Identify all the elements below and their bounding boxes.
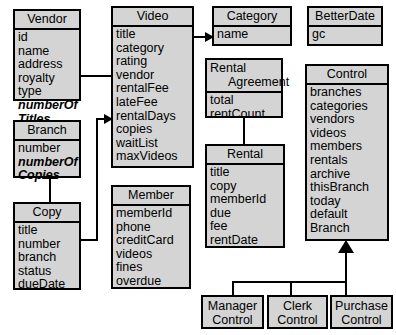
attribute-item: status	[18, 265, 77, 279]
class-attributes-control: branches categories vendors videos membe…	[307, 85, 387, 238]
connector-clerk-control-riser	[290, 281, 292, 295]
attribute-item: rentDate	[210, 234, 281, 248]
attribute-item: phone	[116, 221, 187, 235]
class-name-rental: Rental	[207, 146, 283, 165]
class-name-line2: Agreement	[210, 75, 279, 89]
class-name-member: Member	[113, 187, 189, 206]
class-attributes-rental: title copy memberId due fee rentDate	[207, 165, 283, 250]
connector-control-trunk	[345, 252, 347, 283]
attribute-item: thisBranch	[310, 181, 385, 195]
attribute-item: vendor	[116, 69, 190, 83]
attribute-item: videos	[116, 248, 187, 262]
class-name-vendor: Vendor	[15, 11, 79, 30]
class-box-betterdate[interactable]: BetterDate gc	[307, 6, 383, 46]
attribute-item: copy	[210, 180, 281, 194]
class-name-purchase-control: Purchase Control	[332, 297, 391, 329]
attribute-item: gc	[312, 28, 379, 42]
attribute-item: title	[116, 28, 190, 42]
attribute-item: title	[18, 224, 77, 238]
attribute-item: branches	[310, 86, 385, 100]
generalization-triangle-controls	[338, 240, 354, 253]
class-box-video[interactable]: Video title category rating vendor renta…	[111, 6, 194, 168]
class-box-clerk-control[interactable]: Clerk Control	[267, 295, 328, 329]
attribute-item: branch	[18, 251, 77, 265]
attribute-item: overdue	[116, 275, 187, 289]
class-diagram-canvas: Vendor id name address royalty type numb…	[0, 0, 396, 335]
attribute-item: rentalFee	[116, 82, 190, 96]
attribute-item: number	[18, 142, 77, 156]
attribute-item: videos	[310, 127, 385, 141]
attribute-item: type	[18, 85, 77, 99]
class-attributes-member: memberId phone creditCard videos fines o…	[113, 206, 189, 291]
class-name-category: Category	[214, 8, 290, 27]
class-attributes-video: title category rating vendor rentalFee l…	[113, 27, 192, 166]
attribute-item: vendors	[310, 113, 385, 127]
attribute-item: waitList	[116, 137, 190, 151]
class-box-category[interactable]: Category name	[212, 6, 292, 46]
class-attributes-copy: title number branch status dueDate	[15, 223, 79, 294]
class-box-control[interactable]: Control branches categories vendors vide…	[305, 64, 389, 241]
class-box-manager-control[interactable]: Manager Control	[201, 295, 264, 329]
attribute-item: maxVideos	[116, 150, 190, 164]
attribute-item: memberId	[210, 193, 281, 207]
attribute-item: default Branch	[310, 208, 385, 235]
class-box-rental-agreement[interactable]: RentalAgreement total rentCount	[205, 58, 283, 118]
attribute-item: number	[18, 238, 77, 252]
attribute-item: memberId	[116, 207, 187, 221]
attribute-item: categories	[310, 100, 385, 114]
attribute-item: name	[18, 45, 77, 59]
class-box-purchase-control[interactable]: Purchase Control	[330, 295, 393, 329]
class-box-member[interactable]: Member memberId phone creditCard videos …	[111, 185, 191, 289]
attribute-item: rentCount	[210, 108, 279, 122]
class-name-line1: Rental	[210, 61, 246, 75]
attribute-item: today	[310, 195, 385, 209]
attribute-item: dueDate	[18, 278, 77, 292]
attribute-item: royalty	[18, 72, 77, 86]
class-box-vendor[interactable]: Vendor id name address royalty type numb…	[13, 9, 81, 101]
class-box-copy[interactable]: Copy title number branch status dueDate	[13, 202, 81, 290]
attribute-item: lateFee	[116, 96, 190, 110]
attribute-item: rentals	[310, 154, 385, 168]
attribute-item: rentalDays	[116, 110, 190, 124]
class-attributes-rental-agreement: total rentCount	[207, 93, 281, 123]
class-name-branch: Branch	[15, 122, 79, 141]
class-attributes-category: name	[214, 27, 290, 44]
class-name-manager-control: Manager Control	[203, 297, 262, 329]
connector-manager-control-riser	[232, 281, 234, 295]
attribute-item: fines	[116, 261, 187, 275]
attribute-item: address	[18, 58, 77, 72]
attribute-item: fee	[210, 220, 281, 234]
attribute-item: creditCard	[116, 234, 187, 248]
connector-copy-to-video-riser	[96, 118, 98, 241]
class-attributes-vendor: id name address royalty type numberOf Ti…	[15, 30, 79, 128]
class-name-control: Control	[307, 66, 387, 85]
class-name-video: Video	[113, 8, 192, 27]
attribute-item: archive	[310, 168, 385, 182]
attribute-item: name	[217, 28, 288, 42]
attribute-item: id	[18, 31, 77, 45]
attribute-item: members	[310, 140, 385, 154]
attribute-item: rating	[116, 55, 190, 69]
class-name-clerk-control: Clerk Control	[269, 297, 326, 329]
attribute-item: total	[210, 94, 279, 108]
class-box-branch[interactable]: Branch number numberOf Copies	[13, 120, 81, 178]
attribute-item: copies	[116, 123, 190, 137]
connector-purchase-control-riser	[345, 281, 347, 295]
class-attributes-branch: number numberOf Copies	[15, 141, 79, 185]
attribute-item: due	[210, 207, 281, 221]
connector-video-to-vendor	[80, 75, 112, 77]
class-name-betterdate: BetterDate	[309, 8, 381, 27]
class-box-rental[interactable]: Rental title copy memberId due fee rentD…	[205, 144, 285, 248]
class-name-rental-agreement: RentalAgreement	[207, 60, 281, 93]
attribute-item: category	[116, 42, 190, 56]
attribute-item: title	[210, 166, 281, 180]
class-name-copy: Copy	[15, 204, 79, 223]
class-attributes-betterdate: gc	[309, 27, 381, 44]
attribute-item-derived: numberOf Copies	[18, 156, 77, 183]
